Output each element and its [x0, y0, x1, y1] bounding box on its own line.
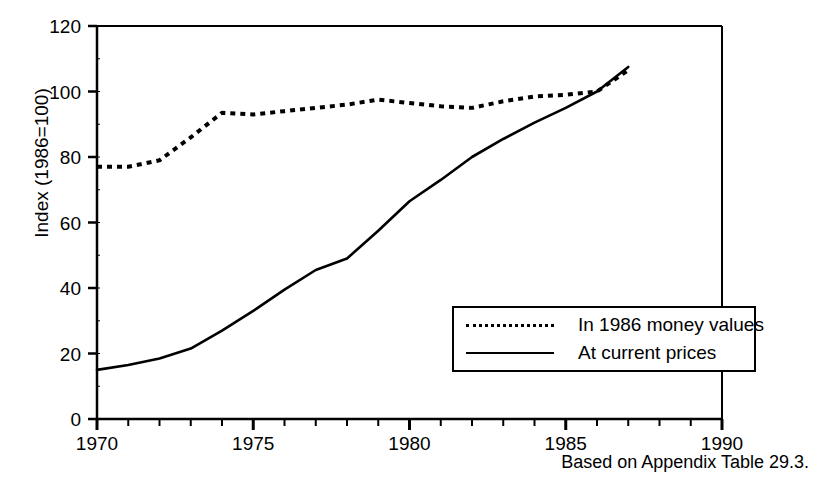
x-tick-label: 1970 — [57, 433, 137, 455]
y-tick-label: 20 — [60, 344, 81, 365]
x-tick-label: 1975 — [213, 433, 293, 455]
x-tick-label: 1980 — [370, 433, 450, 455]
y-tick-label: 0 — [70, 409, 81, 430]
source-note: Based on Appendix Table 29.3. — [561, 452, 809, 473]
plot-area: 020406080100120 — [0, 0, 823, 484]
y-tick-labels: 020406080100120 — [49, 16, 81, 430]
legend-entry-solid: At current prices — [454, 339, 754, 367]
legend-swatch-dotted-icon — [464, 318, 556, 332]
y-tick-label: 120 — [49, 16, 81, 37]
legend-label-solid: At current prices — [578, 342, 716, 364]
y-tick-label: 40 — [60, 278, 81, 299]
y-tick-label: 100 — [49, 82, 81, 103]
legend-entry-dotted: In 1986 money values — [454, 311, 754, 339]
chart-figure: Index (1986=100) 020406080100120 1970197… — [0, 0, 823, 484]
legend-swatch-solid-icon — [464, 346, 556, 360]
series-line — [97, 70, 628, 167]
y-tick-label: 60 — [60, 213, 81, 234]
legend-label-dotted: In 1986 money values — [578, 314, 764, 336]
legend: In 1986 money values At current prices — [452, 306, 756, 372]
y-tick-label: 80 — [60, 147, 81, 168]
